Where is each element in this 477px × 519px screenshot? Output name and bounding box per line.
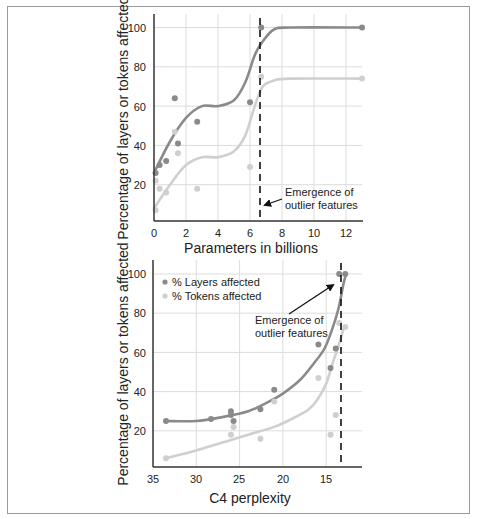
tokens-data-point xyxy=(163,455,169,461)
layers-data-point xyxy=(163,418,169,424)
tokens-data-point xyxy=(175,150,181,156)
tokens-data-point xyxy=(231,424,237,430)
layers-data-point xyxy=(271,387,277,393)
bottom-ytick-40: 40 xyxy=(134,386,146,398)
top-ytick-20: 20 xyxy=(134,179,146,191)
tokens-data-point xyxy=(228,432,234,438)
top-xtick-2: 2 xyxy=(183,227,189,239)
layers-data-point xyxy=(208,416,214,422)
tokens-data-point xyxy=(247,164,253,170)
legend-layers-label: % Layers affected xyxy=(172,276,260,288)
tokens-data-point xyxy=(172,129,178,135)
layers-data-point xyxy=(163,158,169,164)
top-chart-x-ticks: 0 2 4 6 8 10 12 xyxy=(151,227,352,239)
top-chart: 20 40 60 80 100 0 2 4 6 8 10 12 Paramete… xyxy=(115,0,365,256)
top-chart-annotation: Emergence of outlier features xyxy=(265,186,358,211)
top-ytick-80: 80 xyxy=(134,61,146,73)
layers-data-point xyxy=(157,162,163,168)
layers-data-point xyxy=(328,365,334,371)
bottom-xtick-20: 20 xyxy=(277,473,289,485)
tokens-data-point xyxy=(359,76,365,82)
tokens-data-point xyxy=(157,186,163,192)
legend-tokens-label: % Tokens affected xyxy=(172,290,262,302)
layers-data-point xyxy=(333,345,339,351)
tokens-data-point xyxy=(194,186,200,192)
legend-tokens-marker xyxy=(162,293,167,298)
layers-data-point xyxy=(231,418,237,424)
top-xtick-8: 8 xyxy=(279,227,285,239)
layers-data-point xyxy=(172,95,178,101)
top-xtick-4: 4 xyxy=(215,227,221,239)
bottom-chart-x-ticks: 35 30 25 20 15 xyxy=(147,473,332,485)
bottom-annotation-line1: Emergence of xyxy=(255,314,324,326)
bottom-xtick-30: 30 xyxy=(190,473,202,485)
top-chart-fit-curves xyxy=(154,27,362,208)
tokens-data-point xyxy=(163,190,169,196)
layers-data-point xyxy=(258,25,264,31)
layers-data-point xyxy=(228,412,234,418)
layers-data-point xyxy=(247,99,253,105)
top-xtick-6: 6 xyxy=(247,227,253,239)
tokens-data-point xyxy=(257,436,263,442)
top-ytick-60: 60 xyxy=(134,101,146,113)
figure-canvas: 20 40 60 80 100 0 2 4 6 8 10 12 Paramete… xyxy=(0,0,477,519)
top-xtick-10: 10 xyxy=(308,227,320,239)
top-annotation-line2: outlier features xyxy=(285,199,358,211)
legend-layers-marker xyxy=(162,279,167,284)
top-ytick-40: 40 xyxy=(134,140,146,152)
bottom-xtick-25: 25 xyxy=(233,473,245,485)
tokens-data-point xyxy=(271,398,277,404)
tokens-fit-curve xyxy=(166,329,344,458)
bottom-chart-legend: % Layers affected % Tokens affected xyxy=(162,276,261,302)
bottom-xtick-35: 35 xyxy=(147,473,159,485)
bottom-annotation-line2: outlier features xyxy=(255,327,328,339)
tokens-data-point xyxy=(342,324,348,330)
top-annotation-line1: Emergence of xyxy=(285,186,354,198)
bottom-ytick-20: 20 xyxy=(134,425,146,437)
layers-data-point xyxy=(175,140,181,146)
bottom-chart-x-label: C4 perplexity xyxy=(209,490,291,506)
top-xtick-12: 12 xyxy=(340,227,352,239)
layers-data-point xyxy=(194,119,200,125)
bottom-ytick-60: 60 xyxy=(134,347,146,359)
bottom-chart-y-label: Percentage of layers or tokens affected xyxy=(115,242,131,485)
tokens-data-point xyxy=(328,432,334,438)
tokens-data-point xyxy=(333,412,339,418)
top-chart-x-label: Parameters in billions xyxy=(184,240,318,256)
layers-data-point xyxy=(257,406,263,412)
tokens-data-point xyxy=(315,375,321,381)
layers-data-point xyxy=(359,25,365,31)
layers-data-point xyxy=(342,271,348,277)
top-annotation-arrow xyxy=(265,199,282,205)
bottom-chart: 20 40 60 80 100 35 30 25 20 15 C4 perple… xyxy=(115,242,362,506)
bottom-ytick-80: 80 xyxy=(134,307,146,319)
top-chart-y-label: Percentage of layers or tokens affected xyxy=(115,0,131,240)
bottom-chart-annotation: Emergence of outlier features xyxy=(255,285,333,339)
layers-data-point xyxy=(315,342,321,348)
tokens-data-point xyxy=(258,74,264,80)
bottom-xtick-15: 15 xyxy=(320,473,332,485)
top-xtick-0: 0 xyxy=(151,227,157,239)
